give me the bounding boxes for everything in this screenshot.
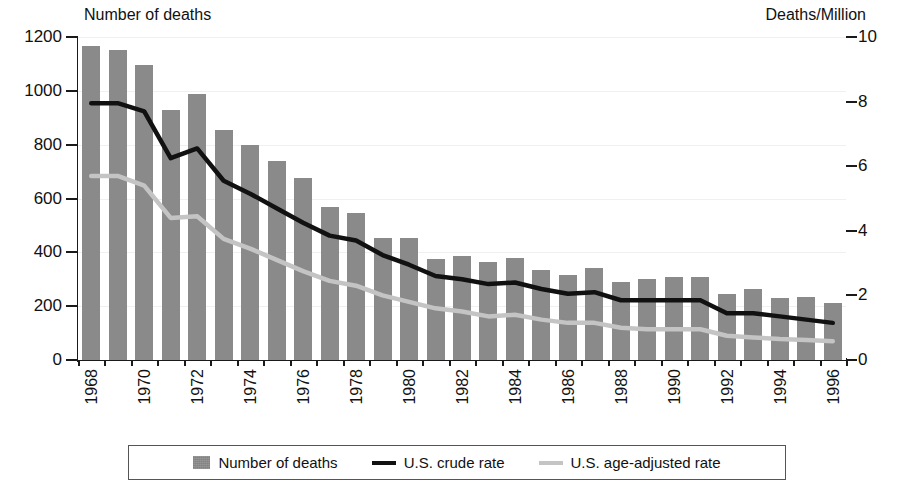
x-axis-tick (687, 361, 689, 366)
left-axis-tick (66, 359, 78, 361)
x-axis-tick (555, 361, 557, 366)
x-axis-tick (714, 361, 716, 366)
x-axis-tick-label: 1974 (242, 369, 260, 405)
x-axis-tick-label: 1988 (613, 369, 631, 405)
x-axis-tick (396, 361, 398, 366)
left-axis-title: Number of deaths (84, 6, 211, 24)
x-axis-tick-label: 1968 (83, 369, 101, 405)
x-axis-tick (846, 361, 848, 366)
x-axis-tick (502, 361, 504, 366)
x-axis-tick (475, 361, 477, 366)
right-axis-tick (846, 36, 857, 38)
x-axis-tick (343, 361, 345, 366)
x-axis-tick (210, 361, 212, 366)
right-axis-tick (846, 230, 857, 232)
x-axis-tick (449, 361, 451, 366)
x-axis-tick (661, 361, 663, 366)
line-us-age-adjusted-rate (91, 176, 833, 341)
legend-item[interactable]: U.S. age-adjusted rate (539, 454, 721, 471)
left-axis-tick-label: 600 (4, 189, 62, 209)
x-axis-tick (78, 361, 80, 366)
x-axis-tick (528, 361, 530, 366)
x-axis-tick (131, 361, 133, 366)
x-axis-tick (184, 361, 186, 366)
right-axis-title: Deaths/Million (766, 6, 866, 24)
x-axis-tick (157, 361, 159, 366)
x-axis-tick-label: 1976 (295, 369, 313, 405)
x-axis-tick-label: 1992 (719, 369, 737, 405)
right-axis-tick (846, 165, 857, 167)
chart-legend: Number of deathsU.S. crude rateU.S. age-… (128, 445, 786, 480)
x-axis-tick-label: 1986 (560, 369, 578, 405)
legend-item-label: U.S. age-adjusted rate (571, 454, 721, 471)
legend-line-swatch-icon (372, 461, 396, 465)
x-axis-tick-label: 1984 (507, 369, 525, 405)
x-axis-tick (793, 361, 795, 366)
legend-item[interactable]: Number of deaths (193, 454, 337, 471)
x-axis-tick (316, 361, 318, 366)
x-axis-tick (740, 361, 742, 366)
right-axis-tick-label: 8 (858, 92, 898, 112)
legend-bar-swatch-icon (193, 456, 210, 469)
x-axis-tick (820, 361, 822, 366)
left-axis-tick-label: 400 (4, 242, 62, 262)
x-axis-tick (581, 361, 583, 366)
left-axis-tick (66, 198, 78, 200)
x-axis-tick-label: 1978 (348, 369, 366, 405)
x-axis-tick-label: 1970 (136, 369, 154, 405)
right-axis-tick-label: 10 (858, 27, 898, 47)
x-axis-tick-label: 1990 (666, 369, 684, 405)
x-axis-tick-label: 1972 (189, 369, 207, 405)
left-axis-tick-label: 800 (4, 135, 62, 155)
right-axis-tick-label: 4 (858, 221, 898, 241)
legend-item[interactable]: U.S. crude rate (372, 454, 505, 471)
legend-line-swatch-icon (539, 461, 563, 465)
x-axis-tick (237, 361, 239, 366)
x-axis-tick-label: 1982 (454, 369, 472, 405)
x-axis-tick (290, 361, 292, 366)
right-axis-tick (846, 101, 857, 103)
x-axis-tick-label: 1996 (825, 369, 843, 405)
x-axis-tick (263, 361, 265, 366)
x-axis-tick-label: 1994 (772, 369, 790, 405)
line-series-layer (78, 37, 846, 360)
x-axis-tick (767, 361, 769, 366)
x-axis-tick (369, 361, 371, 366)
right-axis-tick-label: 0 (858, 350, 898, 370)
x-axis-tick (608, 361, 610, 366)
line-us-crude-rate (91, 103, 833, 323)
chart-figure: Number of deaths Deaths/Million 02004006… (0, 0, 914, 497)
right-axis-tick (846, 294, 857, 296)
left-axis-tick-label: 1000 (4, 81, 62, 101)
left-axis-tick-label: 200 (4, 296, 62, 316)
x-axis-tick (422, 361, 424, 366)
left-axis-tick-label: 0 (4, 350, 62, 370)
left-axis-tick (66, 144, 78, 146)
right-axis-tick-label: 2 (858, 285, 898, 305)
x-axis-tick (104, 361, 106, 366)
legend-item-label: Number of deaths (218, 454, 337, 471)
left-axis-tick (66, 251, 78, 253)
right-axis-tick-label: 6 (858, 156, 898, 176)
x-axis-tick (634, 361, 636, 366)
left-axis-tick-label: 1200 (4, 27, 62, 47)
left-axis-tick (66, 36, 78, 38)
left-axis-tick (66, 305, 78, 307)
legend-item-label: U.S. crude rate (404, 454, 505, 471)
left-axis-tick (66, 90, 78, 92)
plot-area (78, 37, 846, 360)
x-axis-tick-label: 1980 (401, 369, 419, 405)
